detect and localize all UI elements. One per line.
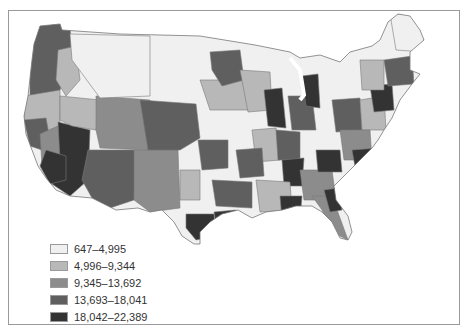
legend-swatch — [50, 244, 68, 254]
legend-label: 647–4,995 — [74, 243, 126, 255]
legend-swatch — [50, 312, 68, 322]
legend-label: 4,996–9,344 — [74, 260, 135, 272]
legend-swatch — [50, 295, 68, 305]
legend-swatch — [50, 278, 68, 288]
legend-label: 9,345–13,692 — [74, 277, 141, 289]
legend-label: 13,693–18,041 — [74, 294, 147, 306]
legend-item: 9,345–13,692 — [50, 274, 147, 291]
legend-item: 4,996–9,344 — [50, 257, 147, 274]
legend: 647–4,995 4,996–9,344 9,345–13,692 13,69… — [50, 240, 147, 325]
legend-item: 18,042–22,389 — [50, 308, 147, 325]
legend-swatch — [50, 261, 68, 271]
legend-item: 647–4,995 — [50, 240, 147, 257]
legend-item: 13,693–18,041 — [50, 291, 147, 308]
legend-label: 18,042–22,389 — [74, 311, 147, 323]
